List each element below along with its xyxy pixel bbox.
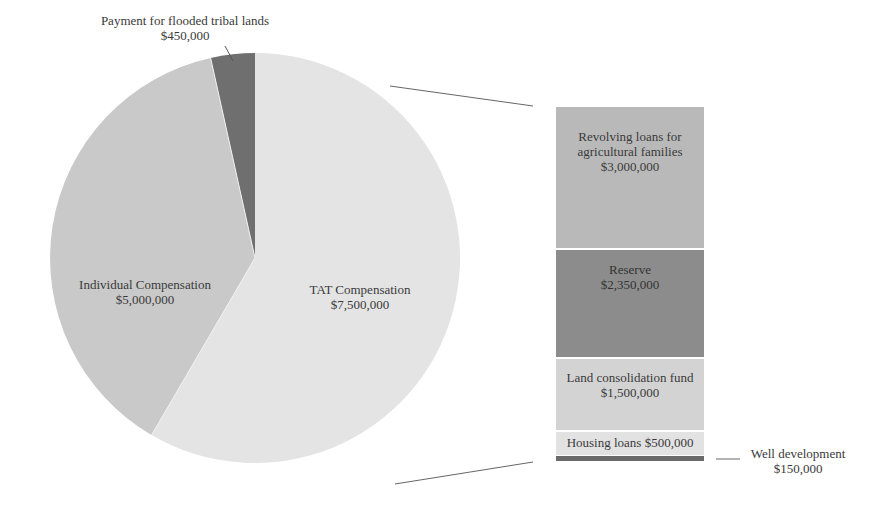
revolving-value: $3,000,000 [556,159,704,174]
payment-label-value: $450,000 [90,28,280,43]
tat-label-name: TAT Compensation [290,282,430,297]
bar-segment-housing-loans: Housing loans $500,000 [556,432,704,455]
revolving-label-line1: Revolving loans for [556,129,704,144]
well-label-value: $150,000 [738,461,858,476]
chart-graphics [0,0,877,510]
reserve-label: Reserve [556,262,704,277]
reserve-value: $2,350,000 [556,277,704,292]
tat-label: TAT Compensation $7,500,000 [290,282,430,312]
revolving-label-line2: agricultural families [556,144,704,159]
bar-segment-land-consolidation: Land consolidation fund $1,500,000 [556,359,704,430]
bar-segment-well-development [556,456,704,461]
payment-label-name: Payment for flooded tribal lands [90,13,280,28]
land-value: $1,500,000 [556,385,704,400]
well-label-name: Well development [738,446,858,461]
well-label: Well development $150,000 [738,446,858,476]
land-label: Land consolidation fund [556,370,704,385]
bar-segment-revolving-loans: Revolving loans for agricultural familie… [556,107,704,248]
connector-line-bottom [395,462,533,484]
chart-canvas: Revolving loans for agricultural familie… [0,0,877,510]
housing-label: Housing loans $500,000 [556,435,704,450]
individual-label: Individual Compensation $5,000,000 [60,277,230,307]
connector-line-top [390,86,533,106]
individual-label-name: Individual Compensation [60,277,230,292]
bar-segment-reserve: Reserve $2,350,000 [556,250,704,357]
tat-label-value: $7,500,000 [290,297,430,312]
individual-label-value: $5,000,000 [60,292,230,307]
payment-label: Payment for flooded tribal lands $450,00… [90,13,280,43]
